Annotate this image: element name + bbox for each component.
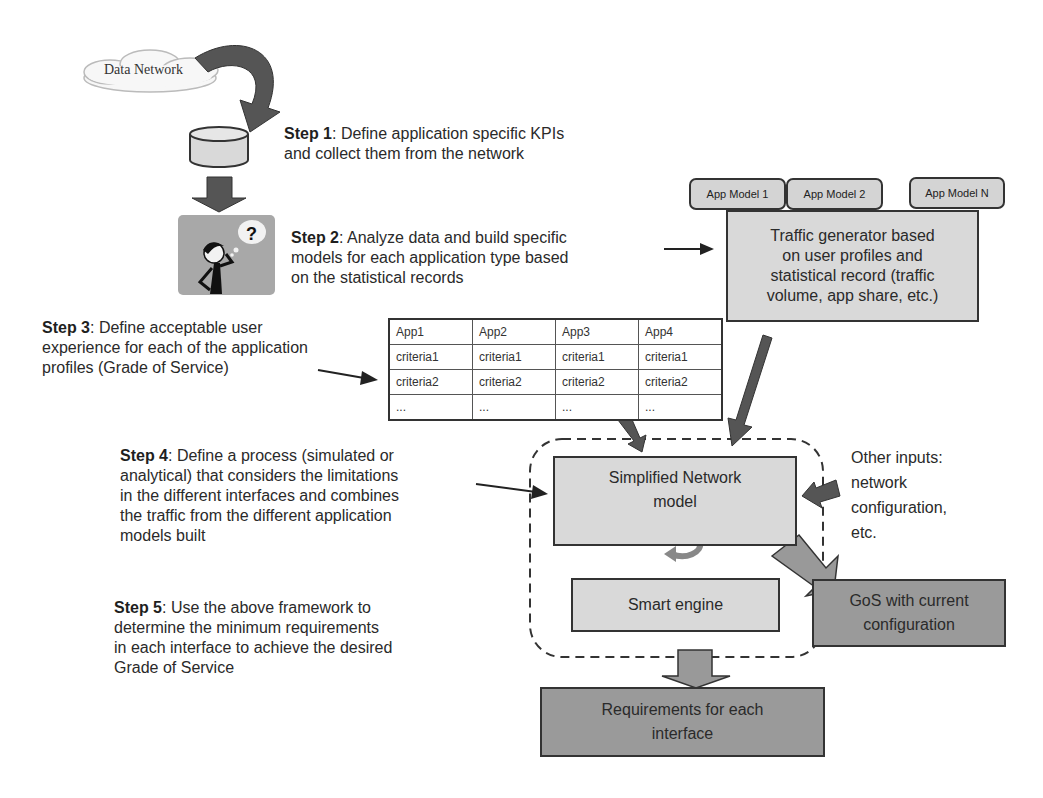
database-icon	[190, 127, 248, 167]
svg-text:?: ?	[246, 224, 257, 244]
step2-arrow-icon	[664, 243, 714, 255]
network-model-box: Simplified Network model	[553, 456, 797, 546]
requirements-box: Requirements for each interface	[540, 687, 825, 757]
step-2-text: Step 2: Analyze data and build specific …	[291, 228, 569, 288]
step-5-text: Step 5: Use the above framework to deter…	[114, 598, 392, 678]
table-cell: criteria1	[556, 345, 639, 370]
table-header: App2	[473, 319, 556, 345]
criteria-table: App1 App2 App3 App4 criteria1 criteria1 …	[388, 318, 723, 421]
table-cell: criteria1	[389, 345, 473, 370]
table-row: ... ... ... ...	[389, 395, 722, 421]
table-cell: ...	[639, 395, 723, 421]
table-cell: ...	[556, 395, 639, 421]
step-3-text: Step 3: Define acceptable user experienc…	[42, 318, 308, 378]
table-cell: criteria2	[473, 370, 556, 395]
step-4-text: Step 4: Define a process (simulated or a…	[120, 446, 399, 546]
table-row: criteria1 criteria1 criteria1 criteria1	[389, 345, 722, 370]
step4-arrow-icon	[476, 484, 548, 499]
table-cell: criteria1	[473, 345, 556, 370]
table-cell: criteria2	[556, 370, 639, 395]
table-cell: ...	[389, 395, 473, 421]
table-cell: criteria1	[639, 345, 723, 370]
app-model-1-tab: App Model 1	[689, 178, 786, 210]
traffic-generator-box: Traffic generator based on user profiles…	[726, 210, 979, 322]
table-header: App3	[556, 319, 639, 345]
table-cell: criteria2	[639, 370, 723, 395]
smart-engine-box: Smart engine	[571, 578, 780, 632]
table-header: App4	[639, 319, 723, 345]
analyst-icon: ?	[178, 215, 275, 295]
table-header: App1	[389, 319, 473, 345]
table-cell: criteria2	[389, 370, 473, 395]
engine-to-requirements-arrow-icon	[662, 650, 730, 688]
table-cell: ...	[473, 395, 556, 421]
other-inputs-text: Other inputs: network configuration, etc…	[851, 445, 947, 545]
gos-box: GoS with current configuration	[812, 579, 1006, 647]
app-model-2-tab: App Model 2	[786, 178, 883, 210]
cloud-label: Data Network	[104, 62, 183, 78]
table-header-row: App1 App2 App3 App4	[389, 319, 722, 345]
curved-arrow-icon	[195, 45, 280, 132]
generator-to-model-arrow-icon	[728, 335, 772, 446]
down-arrow-icon	[192, 177, 246, 212]
step3-arrow-icon	[318, 370, 378, 385]
other-inputs-arrow-icon	[802, 480, 840, 508]
step-1-text: Step 1: Define application specific KPIs…	[284, 124, 564, 164]
table-row: criteria2 criteria2 criteria2 criteria2	[389, 370, 722, 395]
app-model-n-tab: App Model N	[909, 177, 1005, 209]
